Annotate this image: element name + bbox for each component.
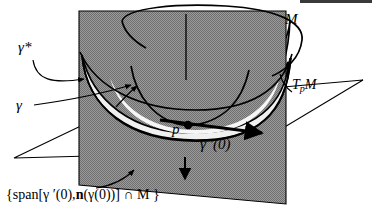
leader-gamma-star (33, 60, 84, 81)
label-point-p: p (172, 122, 180, 137)
figure-root: γ* γ M TpM p γ ′(0) {span[γ ′(0),n(γ(0))… (0, 0, 372, 217)
label-manifold-M: M (285, 12, 298, 27)
label-gamma-prime-zero: γ ′(0) (200, 137, 230, 152)
tangent-space-T: T (292, 77, 300, 92)
caption-open: {span[γ ′(0), (6, 187, 76, 202)
caption-span-intersection: {span[γ ′(0),n(γ(0))] ∩ M } (6, 188, 160, 202)
caption-manifold-M: M (137, 187, 149, 202)
tangent-space-M: M (305, 77, 317, 92)
diagram-canvas (0, 0, 372, 217)
caption-mid: (γ(0))] ∩ (83, 187, 137, 202)
caption-close: } (149, 187, 159, 202)
label-gamma-star: γ* (18, 40, 31, 55)
label-gamma: γ (16, 98, 22, 113)
scan-edge-artifact (300, 0, 372, 3)
label-tangent-space: TpM (292, 78, 317, 94)
